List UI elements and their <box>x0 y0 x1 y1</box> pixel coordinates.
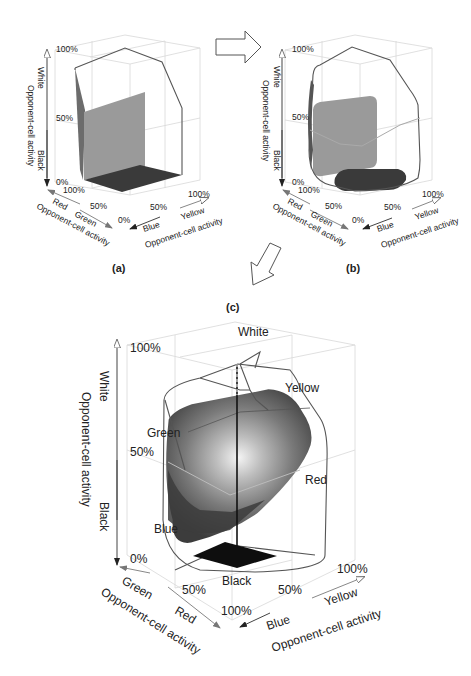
label-white: White <box>272 66 282 88</box>
label-black: Black <box>97 502 111 532</box>
caption-a: (a) <box>112 262 126 274</box>
label-green-vertex: Green <box>147 426 180 440</box>
label-black: Black <box>272 150 282 172</box>
label-red: Red <box>173 603 199 626</box>
tick-100-right: 100% <box>422 189 444 199</box>
label-black: Black <box>36 150 46 172</box>
tick-50-right: 50% <box>384 202 401 212</box>
label-blue: Blue <box>376 219 396 234</box>
vertical-axis-title: Opponent-cell activity <box>79 392 93 507</box>
tick-50-left: 50% <box>182 583 206 597</box>
label-blue-vertex: Blue <box>154 522 178 536</box>
tick-100-right: 100% <box>188 189 210 199</box>
tick-100-left: 100% <box>221 604 252 618</box>
label-white: White <box>36 67 46 89</box>
vertical-axis-title: Opponent-cell activity <box>26 85 36 167</box>
vertical-axis-title: Opponent-cell activity <box>261 80 271 162</box>
tick-100: 100% <box>56 44 78 54</box>
label-yellow: Yellow <box>323 585 360 609</box>
tick-0-right: 0% <box>352 215 365 225</box>
tick-50: 50% <box>130 445 154 459</box>
label-blue: Blue <box>142 219 162 234</box>
white-green-ridge <box>200 378 250 390</box>
label-white: White <box>97 371 111 402</box>
arrow-right-icon <box>216 31 261 63</box>
caption-c: (c) <box>226 301 240 313</box>
tick-50-left: 50% <box>90 201 107 211</box>
tick-100: 100% <box>130 341 161 355</box>
tick-50: 50% <box>56 113 73 123</box>
label-blue: Blue <box>265 612 292 633</box>
label-red-vertex: Red <box>305 473 327 487</box>
label-white-vertex: White <box>238 325 269 339</box>
tick-100-right: 100% <box>337 562 368 576</box>
arrow-down-left-icon <box>251 243 281 285</box>
label-yellow-vertex: Yellow <box>285 381 320 395</box>
tick-0-right: 0% <box>118 215 131 225</box>
label-black-vertex: Black <box>222 574 252 588</box>
tick-100: 100% <box>292 44 314 54</box>
tick-0: 0% <box>130 552 148 566</box>
dark-floor <box>334 169 406 191</box>
tick-50: 50% <box>292 112 309 122</box>
tick-50-right: 50% <box>278 583 302 597</box>
panel-b: 100% 50% 0% White Black Opponent-cell ac… <box>261 35 461 274</box>
opponent-color-diagram: 100% 50% 0% White Black Opponent-cell ac… <box>0 0 471 676</box>
tick-50-right: 50% <box>150 202 167 212</box>
tick-100-left: 100% <box>298 185 320 195</box>
tick-100-left: 100% <box>63 185 85 195</box>
panel-c: White Yellow Green Red Blue Black 100% 5… <box>79 322 383 657</box>
caption-b: (b) <box>346 262 360 274</box>
panel-a: 100% 50% 0% White Black Opponent-cell ac… <box>26 35 225 274</box>
tick-50-left: 50% <box>325 201 342 211</box>
black-floor <box>193 542 277 568</box>
